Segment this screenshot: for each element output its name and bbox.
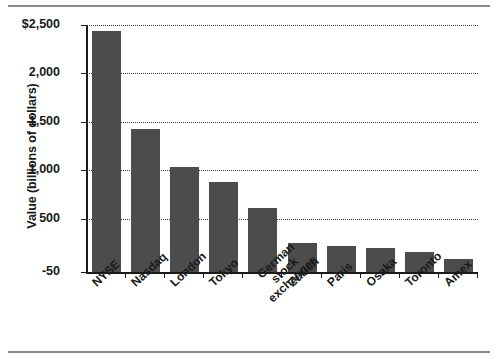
gridline <box>87 25 478 26</box>
bar-chart-figure: Value (billions of dollars) $2,5002,0001… <box>0 0 498 359</box>
bar <box>92 31 121 272</box>
gridline <box>87 122 478 123</box>
gridline <box>87 73 478 74</box>
y-tick-mark <box>81 219 87 220</box>
y-tick-mark <box>81 122 87 123</box>
y-tick-label: 2,000 <box>0 65 60 79</box>
bottom-divider-rule <box>8 351 490 353</box>
x-tick-mark <box>399 272 400 278</box>
y-tick-mark <box>81 272 87 273</box>
y-tick-label: -50 <box>0 264 60 278</box>
y-axis-line <box>86 25 88 273</box>
x-tick-mark <box>203 272 204 278</box>
x-tick-mark <box>438 272 439 278</box>
y-tick-label: 500 <box>0 211 60 225</box>
y-tick-label: $2,500 <box>0 17 60 31</box>
y-tick-mark <box>81 73 87 74</box>
x-tick-mark <box>242 272 243 278</box>
x-tick-mark <box>360 272 361 278</box>
y-tick-mark <box>81 170 87 171</box>
y-tick-mark <box>81 25 87 26</box>
y-tick-label: 1,000 <box>0 162 60 176</box>
x-tick-mark <box>321 272 322 278</box>
top-divider-rule <box>8 5 490 7</box>
x-tick-mark <box>125 272 126 278</box>
plot-area: $2,5002,0001,5001,000500-50 NYSENasdaqLo… <box>87 25 478 272</box>
bar <box>131 129 160 272</box>
x-tick-mark <box>477 272 478 278</box>
y-axis-title: Value (billions of dollars) <box>25 51 39 261</box>
y-tick-label: 1,500 <box>0 114 60 128</box>
x-tick-mark <box>164 272 165 278</box>
